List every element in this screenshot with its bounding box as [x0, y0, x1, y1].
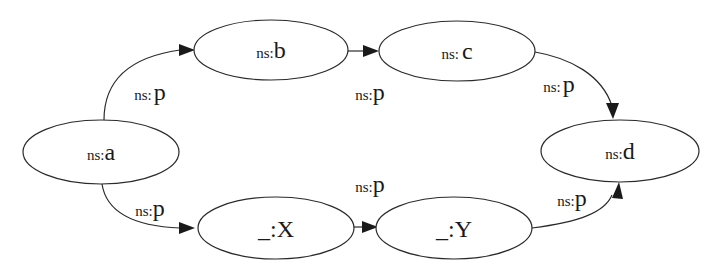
edge-label-a-b: ns:p	[134, 79, 166, 105]
edge-label-x-y: ns:p	[355, 171, 385, 197]
node-blank-y[interactable]: _:Y	[376, 197, 532, 259]
edge-x-to-y	[354, 221, 378, 233]
arrowhead-icon	[612, 182, 623, 199]
arrowhead-icon	[179, 44, 195, 56]
node-ns-b[interactable]: ns:b	[194, 20, 348, 80]
edge-label-a-x: ns:p	[135, 195, 165, 221]
arrowhead-icon	[179, 222, 195, 234]
node-blank-x[interactable]: _:X	[198, 197, 354, 259]
rdf-graph-diagram: ns:a ns:b ns:c ns:d _:X _:Y ns:p	[0, 0, 724, 273]
edge-label-y-d: ns:p	[557, 185, 587, 211]
node-label: _:X	[257, 216, 294, 242]
edge-b-to-c	[347, 45, 379, 57]
node-ns-c[interactable]: ns:c	[379, 21, 535, 81]
arrowhead-icon	[363, 45, 379, 57]
node-label: _:Y	[435, 216, 472, 242]
arrowhead-icon	[606, 103, 619, 119]
node-ns-a[interactable]: ns:a	[23, 120, 179, 184]
node-ns-d[interactable]: ns:d	[541, 120, 699, 182]
edge-label-b-c: ns:p	[355, 79, 385, 105]
edge-label-c-d: ns:p	[543, 71, 575, 97]
edge-a-to-b	[104, 44, 195, 120]
